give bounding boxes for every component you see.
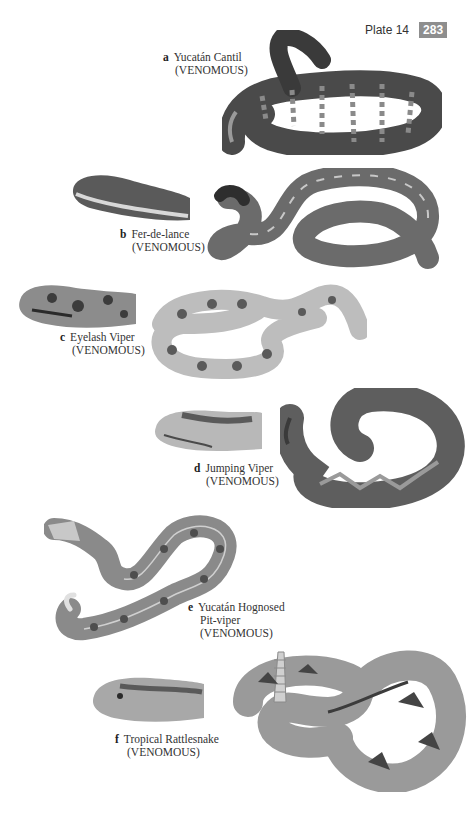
head-detail-tropical-rattlesnake [90, 672, 208, 724]
illustration-yucatan-cantil [222, 30, 442, 155]
illustration-fer-de-lance [190, 168, 440, 278]
species-name: Tropical Rattlesnake [124, 733, 219, 745]
species-name-line2: Pit-viper [188, 614, 285, 627]
illustration-jumping-viper [280, 388, 465, 508]
caption-yucatan-hognosed-pit-viper: eYucatán Hognosed Pit-viper (VENOMOUS) [188, 601, 285, 640]
caption-letter: c [60, 331, 65, 343]
venom-status: (VENOMOUS) [188, 627, 285, 640]
species-name: Yucatán Hognosed [198, 601, 285, 613]
head-detail-jumping-viper [152, 405, 264, 453]
species-name: Fer-de-lance [131, 228, 189, 240]
caption-letter: e [188, 601, 193, 613]
venom-status: (VENOMOUS) [194, 475, 279, 488]
caption-tropical-rattlesnake: fTropical Rattlesnake (VENOMOUS) [115, 733, 219, 759]
caption-jumping-viper: dJumping Viper (VENOMOUS) [194, 462, 279, 488]
head-detail-eyelash-viper [16, 280, 140, 330]
venom-status: (VENOMOUS) [115, 746, 219, 759]
species-name: Jumping Viper [205, 462, 273, 474]
caption-letter: b [120, 228, 126, 240]
caption-eyelash-viper: cEyelash Viper (VENOMOUS) [60, 331, 145, 357]
caption-letter: d [194, 462, 200, 474]
venom-status: (VENOMOUS) [60, 344, 145, 357]
illustration-eyelash-viper [142, 284, 367, 379]
caption-letter: f [115, 733, 119, 745]
caption-letter: a [163, 51, 169, 63]
species-name: Eyelash Viper [70, 331, 135, 343]
head-detail-fer-de-lance [70, 170, 194, 222]
illustration-tropical-rattlesnake [218, 642, 468, 792]
